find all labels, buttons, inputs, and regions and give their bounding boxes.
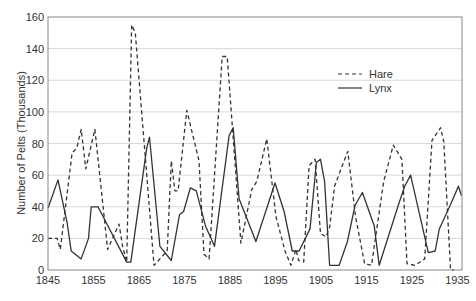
legend-item-hare: Hare (338, 68, 393, 80)
data-series (48, 25, 462, 270)
y-tick-label: 20 (32, 232, 44, 244)
y-axis-ticks: 020406080100120140160 (26, 11, 44, 276)
x-tick-label: 1885 (218, 274, 242, 286)
legend: Hare Lynx (338, 68, 393, 94)
y-tick-label: 120 (26, 74, 44, 86)
y-tick-label: 140 (26, 43, 44, 55)
legend-label-hare: Hare (369, 68, 393, 80)
hare-lynx-line-chart: 020406080100120140160 184518551865187518… (0, 0, 476, 301)
x-tick-label: 1845 (36, 274, 60, 286)
y-tick-label: 60 (32, 169, 44, 181)
legend-label-lynx: Lynx (369, 82, 392, 94)
x-tick-label: 1865 (127, 274, 151, 286)
x-tick-label: 1935 (445, 274, 469, 286)
x-tick-label: 1855 (81, 274, 105, 286)
x-tick-label: 1925 (400, 274, 424, 286)
y-tick-label: 80 (32, 138, 44, 150)
series-line-hare (48, 25, 454, 270)
x-tick-label: 1915 (354, 274, 378, 286)
x-tick-label: 1875 (172, 274, 196, 286)
x-tick-label: 1895 (263, 274, 287, 286)
x-tick-label: 1905 (309, 274, 333, 286)
legend-item-lynx: Lynx (338, 82, 392, 94)
x-axis-ticks: 1845185518651875188518951905191519251935 (36, 274, 470, 286)
horizontal-gridlines (48, 49, 462, 239)
y-tick-label: 100 (26, 106, 44, 118)
y-tick-label: 160 (26, 11, 44, 23)
y-tick-label: 40 (32, 201, 44, 213)
y-axis-title: Number of Pelts (Thousands) (15, 71, 27, 215)
